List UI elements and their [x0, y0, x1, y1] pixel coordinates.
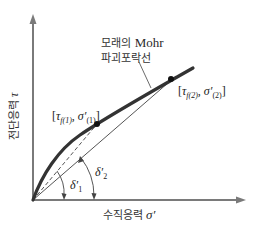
point-1-label: [τf(1), σ′(1)]: [52, 110, 100, 125]
angle-delta2-label: δ′2: [95, 166, 107, 181]
secant-line-1: [33, 124, 97, 200]
delta1-base: δ′: [70, 178, 78, 192]
point-2-sigma-sub: (2): [212, 91, 221, 100]
mohr-envelope-diagram: [0, 0, 259, 231]
failure-point-2: [168, 76, 174, 82]
x-axis-arrow-icon: [236, 197, 246, 204]
point-1-sigma-sub: (1): [86, 116, 95, 125]
point-1-tau-sub: f(1): [60, 116, 72, 125]
envelope-label-kr: 모래의: [101, 37, 131, 50]
delta2-base: δ′: [95, 165, 103, 179]
y-axis-label-text: 전단응력: [8, 100, 21, 140]
angle-arc-delta2: [81, 158, 94, 196]
point-2-label: [τf(2), σ′(2)]: [178, 85, 226, 100]
delta1-sub: 1: [78, 185, 82, 194]
point-2-tau-sub: f(2): [186, 91, 198, 100]
mohr-failure-envelope: [33, 68, 193, 200]
x-axis-label: 수직응력σ′: [103, 208, 155, 221]
sigma-symbol: σ′: [146, 207, 155, 222]
angle-arc-delta1: [57, 171, 64, 196]
delta2-sub: 2: [103, 172, 107, 181]
tau-symbol: τ: [7, 93, 21, 97]
arc-arrow-icon: [62, 193, 67, 200]
y-axis-label: 전단응력τ: [8, 93, 20, 140]
envelope-label-line2: 파괴포락선: [101, 53, 164, 64]
envelope-label: 모래의 Mohr 파괴포락선: [101, 36, 164, 67]
envelope-label-mohr: Mohr: [135, 35, 164, 50]
x-axis-label-text: 수직응력: [103, 209, 143, 222]
arc-arrow-icon: [92, 193, 97, 200]
secant-line-2: [33, 76, 176, 200]
angle-delta1-label: δ′1: [70, 179, 82, 194]
y-axis-arrow-icon: [30, 14, 37, 24]
